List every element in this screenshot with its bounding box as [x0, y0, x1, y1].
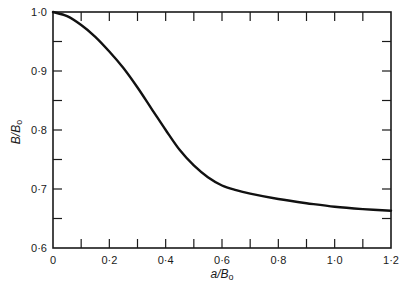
data-curve — [53, 12, 391, 211]
x-tick-label: 0·4 — [158, 254, 174, 266]
y-tick-label: 0·9 — [31, 65, 47, 77]
x-tick-label: 0·8 — [270, 254, 286, 266]
chart: 00·20·40·60·81·01·20·60·70·80·91·0 a/Bo … — [0, 0, 409, 290]
x-tick-label: 0 — [50, 254, 56, 266]
x-axis-label: a/Bo — [210, 267, 233, 282]
x-tick-label: 0·6 — [214, 254, 230, 266]
x-tick-label: 0·2 — [101, 254, 117, 266]
y-tick-label: 0·6 — [31, 242, 47, 254]
y-tick-label: 0·8 — [31, 124, 47, 136]
axis-ticks — [53, 12, 391, 248]
y-tick-label: 0·7 — [31, 183, 47, 195]
y-axis-label: B/Bo — [9, 120, 24, 144]
plot-frame — [53, 12, 391, 248]
tick-labels: 00·20·40·60·81·01·20·60·70·80·91·0 — [31, 6, 399, 266]
y-tick-label: 1·0 — [31, 6, 47, 18]
x-tick-label: 1·0 — [327, 254, 343, 266]
x-tick-label: 1·2 — [383, 254, 399, 266]
